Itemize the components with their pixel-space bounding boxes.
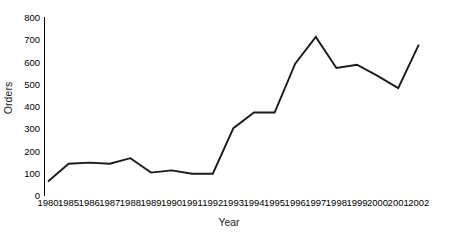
x-tick-label: 1985	[58, 198, 79, 208]
x-tick-label: 1989	[140, 198, 161, 208]
x-tick-label: 1988	[120, 198, 141, 208]
x-tick-label: 1992	[202, 198, 223, 208]
y-tick-label: 300	[24, 125, 40, 135]
x-tick-label: 1980	[37, 198, 58, 208]
x-tick-label: 1996	[285, 198, 306, 208]
x-tick-label: 1999	[346, 198, 367, 208]
y-tick-label: 500	[24, 80, 40, 90]
x-tick-label: 2002	[408, 198, 429, 208]
x-tick-label: 1986	[79, 198, 100, 208]
x-tick-label: 1993	[223, 198, 244, 208]
y-tick-label: 700	[24, 36, 40, 46]
y-tick-label: 800	[24, 13, 40, 23]
x-tick-label: 1998	[326, 198, 347, 208]
x-tick-label: 1997	[305, 198, 326, 208]
y-tick-label: 100	[24, 169, 40, 179]
x-axis-title: Year	[0, 216, 458, 228]
y-tick-label: 600	[24, 58, 40, 68]
y-axis-title-text: Orders	[2, 82, 14, 115]
x-tick-label: 1991	[182, 198, 203, 208]
x-tick-label: 1995	[264, 198, 285, 208]
x-tick-label: 1994	[243, 198, 264, 208]
data-series-orders	[44, 10, 454, 196]
x-tick-label: 2001	[388, 198, 409, 208]
y-tick-label: 400	[24, 102, 40, 112]
line-chart: Orders 0100200300400500600700800 1980198…	[0, 0, 458, 243]
y-axis-title: Orders	[0, 0, 16, 196]
y-tick-label: 200	[24, 147, 40, 157]
y-axis-tick-labels: 0100200300400500600700800	[16, 0, 42, 196]
x-tick-label: 1990	[161, 198, 182, 208]
orders-line	[48, 37, 419, 182]
x-tick-label: 2000	[367, 198, 388, 208]
x-axis-tick-labels: 1980198519861987198819891990199119921993…	[0, 198, 458, 214]
plot-area	[44, 10, 454, 196]
x-tick-label: 1987	[99, 198, 120, 208]
